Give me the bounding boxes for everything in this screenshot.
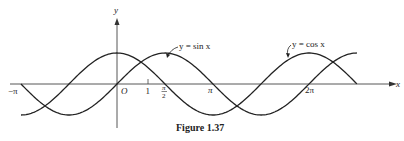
cos-label-arrowhead-icon bbox=[286, 53, 290, 58]
tick-pi: π bbox=[208, 85, 213, 95]
figure-caption: Figure 1.37 bbox=[176, 122, 224, 133]
origin-label: O bbox=[121, 86, 128, 96]
sine-cosine-diagram: x y −π O 1 π 2 π 2π y = sin x y = cos x … bbox=[0, 0, 404, 141]
y-axis-label: y bbox=[113, 5, 118, 15]
sin-curve-label: y = sin x bbox=[179, 41, 211, 51]
tick-pi-over-2-den: 2 bbox=[162, 92, 166, 100]
cos-curve-label: y = cos x bbox=[292, 39, 325, 49]
y-axis-arrow-icon bbox=[115, 18, 120, 25]
x-axis-label: x bbox=[395, 79, 400, 89]
tick-neg-pi: −π bbox=[8, 86, 18, 96]
tick-one-label: 1 bbox=[146, 86, 151, 96]
